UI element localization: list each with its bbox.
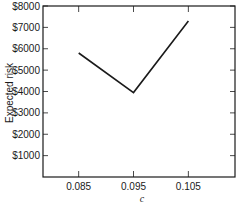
y-tick-label: $5000	[12, 65, 40, 76]
y-axis-title: Expected risk	[4, 62, 15, 123]
y-tick-label: $6000	[12, 43, 40, 54]
y-tick-label: $3000	[12, 107, 40, 118]
expected-risk-line	[79, 21, 189, 93]
x-axis: 0.0850.0950.105	[66, 6, 201, 192]
x-tick-label: 0.095	[121, 181, 146, 192]
y-tick-label: $7000	[12, 22, 40, 33]
y-tick-label: $1000	[12, 150, 40, 161]
x-tick-label: 0.085	[66, 181, 91, 192]
y-axis: $1000$2000$3000$4000$5000$6000$7000$8000	[12, 1, 235, 162]
y-tick-label: $8000	[12, 1, 40, 12]
x-tick-label: 0.105	[176, 181, 201, 192]
y-tick-label: $4000	[12, 86, 40, 97]
y-tick-label: $2000	[12, 129, 40, 140]
expected-risk-chart: $1000$2000$3000$4000$5000$6000$7000$8000…	[0, 0, 237, 208]
x-axis-title: c	[140, 193, 145, 204]
plot-frame	[43, 6, 235, 177]
